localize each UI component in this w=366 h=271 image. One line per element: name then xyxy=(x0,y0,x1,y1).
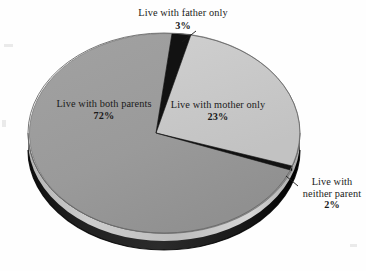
slice-label-neither-parent-line2: neither parent xyxy=(303,188,361,200)
slice-label-father-only-text: Live with father only xyxy=(138,7,227,19)
slice-label-both-parents: Live with both parents 72% xyxy=(56,98,151,121)
slice-label-mother-only: Live with mother only 23% xyxy=(171,99,265,122)
slice-label-mother-only-text: Live with mother only xyxy=(171,99,265,111)
pie-3d-graphic xyxy=(0,0,366,271)
slice-value-father-only: 3% xyxy=(138,20,227,31)
slice-label-father-only: Live with father only 3% xyxy=(138,7,227,31)
slice-label-neither-parent-line1: Live with xyxy=(303,176,361,188)
slice-value-neither-parent: 2% xyxy=(303,199,361,210)
slice-value-both-parents: 72% xyxy=(56,110,151,121)
pie-chart-figure: Live with father only 3% Live with both … xyxy=(0,0,366,271)
slice-label-neither-parent: Live with neither parent 2% xyxy=(303,176,361,210)
slice-value-mother-only: 23% xyxy=(171,111,265,122)
slice-label-both-parents-text: Live with both parents xyxy=(56,98,151,110)
